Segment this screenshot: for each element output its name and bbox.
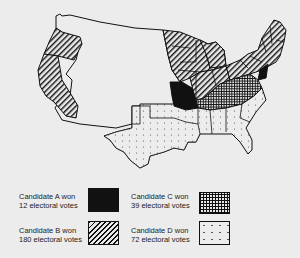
legend-label-b: Candidate B won 180 electoral votes (19, 226, 82, 244)
legend-label-d: Candidate D won 72 electoral votes (131, 226, 190, 244)
swatch-crosshatch (199, 192, 230, 214)
region-northeast (226, 20, 286, 80)
swatch-dots (199, 221, 230, 245)
swatch-diagonal-stripes (88, 221, 119, 245)
legend-c-line2: 39 electoral votes (131, 201, 190, 210)
legend-label-a: Candidate A won 12 electoral votes (19, 192, 78, 210)
legend-d-line2: 72 electoral votes (131, 235, 190, 244)
legend-a-line1: Candidate A won (19, 192, 78, 201)
legend-label-c: Candidate C won 39 electoral votes (131, 192, 190, 210)
legend-c-line1: Candidate C won (131, 192, 190, 201)
us-electoral-map (0, 0, 300, 180)
legend-d-line1: Candidate D won (131, 226, 190, 235)
swatch-solid-black (88, 188, 119, 212)
legend-a-line2: 12 electoral votes (19, 201, 78, 210)
legend-b-line2: 180 electoral votes (19, 235, 82, 244)
legend: Candidate A won 12 electoral votes Candi… (0, 180, 300, 258)
legend-b-line1: Candidate B won (19, 226, 82, 235)
